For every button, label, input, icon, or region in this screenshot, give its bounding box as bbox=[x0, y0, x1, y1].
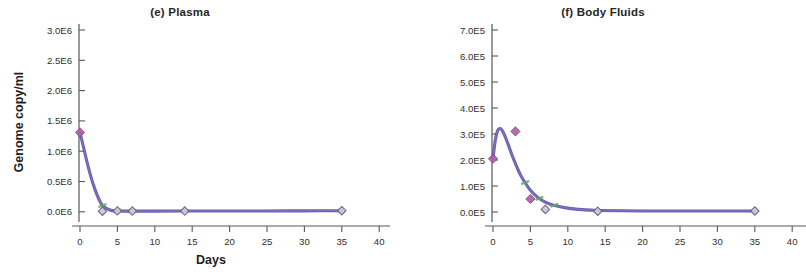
y-tick-label: 6.0E5 bbox=[460, 51, 485, 62]
y-tick-label: 7.0E5 bbox=[460, 25, 485, 36]
data-point-marker bbox=[128, 207, 136, 215]
y-tick-label: 2.0E5 bbox=[460, 155, 485, 166]
y-tick-label: 2.0E6 bbox=[47, 85, 72, 96]
y-tick-label: 2.5E6 bbox=[47, 55, 72, 66]
data-point-marker bbox=[181, 207, 189, 215]
y-tick-label: 0.5E6 bbox=[47, 176, 72, 187]
x-tick-label: 35 bbox=[336, 236, 347, 247]
x-tick-label: 15 bbox=[187, 236, 198, 247]
y-tick-label: 3.0E5 bbox=[460, 129, 485, 140]
x-tick-label: 5 bbox=[528, 236, 533, 247]
chart-panel-plasma: (e) Plasma Genome copy/ml Days 3.0E6 2.5… bbox=[0, 0, 403, 278]
x-tick-label: 30 bbox=[712, 236, 723, 247]
data-point-marker bbox=[75, 128, 84, 137]
x-tick-label: 25 bbox=[675, 236, 686, 247]
y-tick-label: 0.0E6 bbox=[47, 206, 72, 217]
x-tick-label: 10 bbox=[149, 236, 160, 247]
data-point-markers-body-fluids bbox=[488, 127, 759, 216]
x-tick-label: 20 bbox=[224, 236, 235, 247]
fit-curve-inner-path bbox=[80, 132, 342, 211]
x-tick-label: 0 bbox=[490, 236, 495, 247]
data-point-marker bbox=[511, 127, 520, 136]
x-tick-label: 0 bbox=[77, 236, 82, 247]
data-point-marker bbox=[113, 207, 121, 215]
y-tick-label: 4.0E5 bbox=[460, 103, 485, 114]
plot-area-plasma: 3.0E6 2.5E6 2.0E6 1.5E6 1.0E6 0.5E6 0.0E… bbox=[0, 0, 403, 278]
x-tick-label: 10 bbox=[562, 236, 573, 247]
y-tick-label: 0.0E5 bbox=[460, 207, 485, 218]
data-point-marker bbox=[338, 207, 346, 215]
y-tick-label: 1.0E5 bbox=[460, 181, 485, 192]
data-point-marker bbox=[488, 154, 497, 163]
x-tick-label: 40 bbox=[374, 236, 385, 247]
y-tick-label: 1.0E6 bbox=[47, 146, 72, 157]
y-tick-label: 1.5E6 bbox=[47, 115, 72, 126]
data-point-markers-plasma bbox=[75, 128, 346, 216]
x-tick-label: 30 bbox=[299, 236, 310, 247]
plot-area-body-fluids: 7.0E5 6.0E5 5.0E5 4.0E5 3.0E5 2.0E5 1.0E… bbox=[403, 0, 806, 278]
x-tick-label: 40 bbox=[787, 236, 798, 247]
data-point-marker bbox=[541, 205, 549, 213]
x-tick-label: 15 bbox=[600, 236, 611, 247]
fit-curve-path bbox=[80, 132, 342, 211]
x-tick-label: 25 bbox=[262, 236, 273, 247]
model-fit-curve-plasma bbox=[80, 132, 342, 211]
x-tick-label: 20 bbox=[637, 236, 648, 247]
x-tick-label: 5 bbox=[115, 236, 120, 247]
figure-container: (e) Plasma Genome copy/ml Days 3.0E6 2.5… bbox=[0, 0, 806, 278]
y-tick-label: 5.0E5 bbox=[460, 77, 485, 88]
chart-panel-body-fluids: (f) Body Fluids 7.0E5 6.0E5 5.0E5 4.0E5 … bbox=[403, 0, 806, 278]
data-point-marker bbox=[751, 207, 759, 215]
x-tick-label: 35 bbox=[749, 236, 760, 247]
data-point-marker bbox=[594, 207, 602, 215]
y-tick-label: 3.0E6 bbox=[47, 25, 72, 36]
